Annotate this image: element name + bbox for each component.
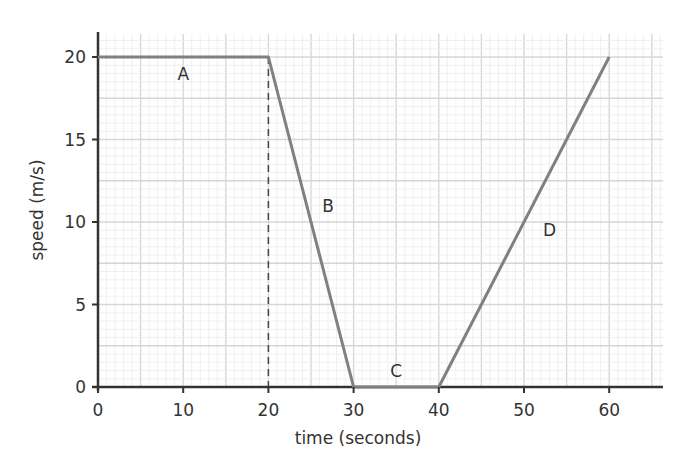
tick-labels: 010203040506005101520 xyxy=(64,47,620,420)
x-tick-label: 10 xyxy=(172,400,194,420)
segment-label-a: A xyxy=(177,64,189,84)
x-tick-label: 20 xyxy=(258,400,280,420)
x-tick-label: 60 xyxy=(598,400,620,420)
grid xyxy=(98,34,663,387)
y-tick-label: 10 xyxy=(64,212,86,232)
speed-time-graph: 010203040506005101520 time (seconds) spe… xyxy=(0,0,689,472)
y-tick-label: 20 xyxy=(64,47,86,67)
x-tick-label: 0 xyxy=(93,400,104,420)
x-axis-title: time (seconds) xyxy=(295,428,422,448)
y-tick-label: 15 xyxy=(64,130,86,150)
x-tick-label: 50 xyxy=(513,400,535,420)
y-axis-title: speed (m/s) xyxy=(27,159,47,260)
segment-label-c: C xyxy=(390,361,402,381)
y-tick-label: 0 xyxy=(75,377,86,397)
y-tick-label: 5 xyxy=(75,295,86,315)
segment-label-d: D xyxy=(543,220,556,240)
segment-label-b: B xyxy=(322,196,334,216)
x-tick-label: 30 xyxy=(343,400,365,420)
x-tick-label: 40 xyxy=(428,400,450,420)
